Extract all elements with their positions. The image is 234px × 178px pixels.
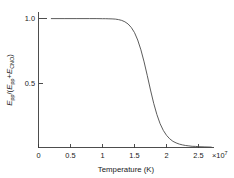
x-axis-multiplier: ×107 (212, 150, 228, 160)
svg-text:×107: ×107 (212, 150, 228, 160)
x-tick-label-0: 0 (36, 151, 40, 160)
x-multiplier-base: ×10 (212, 151, 225, 160)
ylabel-sub3: CNO (9, 57, 15, 69)
x-tick-label-4: 2 (164, 151, 168, 160)
chart-figure: 1.0 0.5 0 0.5 1 1.5 2 2.5 ×107 Temperatu… (0, 0, 234, 178)
chart-canvas: 1.0 0.5 0 0.5 1 1.5 2 2.5 ×107 Temperatu… (0, 0, 234, 178)
x-tick-label-5: 2.5 (193, 151, 203, 160)
y-tick-label-1: 1.0 (25, 14, 35, 23)
y-axis-title: Epp/(Epp+ECNO) (5, 54, 15, 106)
x-multiplier-exponent: 7 (225, 150, 228, 156)
x-axis-ticks (39, 144, 199, 148)
x-tick-label-1: 0.5 (65, 151, 75, 160)
x-tick-label-3: 1.5 (129, 151, 139, 160)
x-axis-title: Temperature (K) (98, 165, 155, 174)
data-curve-pp-fraction (51, 19, 211, 148)
y-tick-label-0: 0.5 (25, 79, 35, 88)
ylabel-close: ) (5, 54, 14, 57)
x-tick-label-2: 1 (100, 151, 104, 160)
y-axis-ticks (39, 19, 43, 84)
svg-text:Epp/(Epp+ECNO): Epp/(Epp+ECNO) (5, 54, 15, 106)
